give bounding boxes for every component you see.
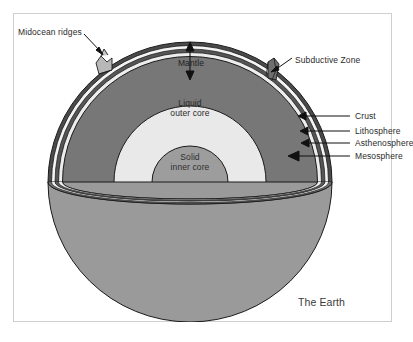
label-liquid-outer-core: Liquid outer core xyxy=(160,98,220,118)
label-liquid-outer-core-line1: Liquid xyxy=(160,98,220,108)
label-solid-inner-core-line1: Solid xyxy=(160,152,220,162)
label-mesosphere: Mesosphere xyxy=(355,151,403,161)
label-liquid-outer-core-line2: outer core xyxy=(160,108,220,118)
label-solid-inner-core: Solid inner core xyxy=(160,152,220,172)
label-crust: Crust xyxy=(355,111,376,121)
label-mantle: Mantle xyxy=(171,58,211,68)
midocean-ridge-feature xyxy=(96,49,112,74)
label-subductive-zone: Subductive Zone xyxy=(295,55,360,65)
label-midocean-ridges: Midocean ridges xyxy=(18,27,82,37)
label-asthenosphere: Asthenosphere xyxy=(355,138,413,148)
label-lithosphere: Lithosphere xyxy=(355,126,401,136)
figure-title: The Earth xyxy=(298,296,345,308)
label-solid-inner-core-line2: inner core xyxy=(160,162,220,172)
